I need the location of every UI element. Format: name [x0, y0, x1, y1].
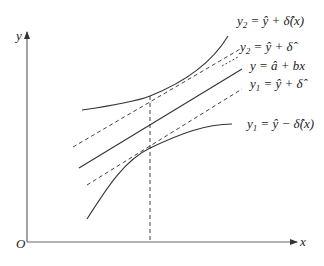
label-lower-curve: y1 = ŷ − δ̂(x) — [245, 116, 314, 133]
upper-dashed-line — [73, 48, 242, 147]
y-axis-label: y — [14, 28, 22, 43]
diagram-canvas: y x O y2 = ŷ + δ̂(x) y2 = ŷ + δ̂ y = â +… — [0, 0, 324, 266]
lower-confidence-curve — [87, 124, 232, 219]
origin-label: O — [16, 236, 26, 251]
lower-dashed-line — [87, 89, 242, 185]
label-lower-dashed: y1 = ŷ + δ̂ — [248, 76, 308, 93]
upper-confidence-curve — [82, 36, 228, 110]
label-upper-dashed: y2 = ŷ + δ̂ — [238, 39, 298, 56]
regression-line — [79, 69, 242, 168]
x-axis-label: x — [299, 234, 306, 249]
label-upper-curve: y2 = ŷ + δ̂(x) — [235, 13, 304, 30]
label-regression-line: y = â + bx — [248, 58, 305, 73]
